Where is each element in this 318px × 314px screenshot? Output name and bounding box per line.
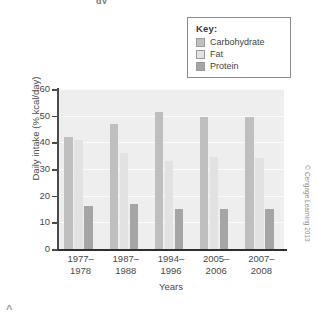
y-tick-mark: [52, 142, 58, 144]
legend-swatch-icon: [196, 62, 205, 71]
bar-protein: [265, 209, 274, 249]
y-tick-mark: [52, 116, 58, 118]
y-tick-label-text: 0: [4, 243, 50, 254]
y-axis-title: Daily intake (% kcal/day): [30, 49, 41, 209]
bar-group: [200, 89, 229, 249]
legend: Key: CarbohydrateFatProtein: [187, 17, 291, 78]
legend-swatch-icon: [196, 38, 205, 47]
legend-item-protein: Protein: [196, 61, 284, 71]
bar-carbohydrate: [64, 137, 73, 249]
legend-title: Key:: [196, 23, 284, 34]
bar-fat: [120, 153, 129, 249]
y-tick-label-text: 40: [4, 136, 50, 147]
y-tick-label-text: 60: [4, 83, 50, 94]
y-tick-label-text: 50: [4, 110, 50, 121]
y-tick-label-text: 30: [4, 163, 50, 174]
legend-item-label: Fat: [210, 49, 223, 59]
x-axis-line: [57, 249, 287, 251]
y-tick-mark: [52, 249, 58, 251]
copyright-credit: © Cengage Learning 2013: [304, 154, 311, 254]
bar-fat: [165, 161, 174, 249]
legend-item-label: Protein: [210, 61, 239, 71]
bar-carbohydrate: [200, 117, 209, 249]
y-tick-mark: [52, 89, 58, 91]
bar-carbohydrate: [155, 112, 164, 249]
bar-fat: [255, 158, 264, 249]
bar-group: [155, 89, 184, 249]
legend-item-label: Carbohydrate: [210, 37, 265, 47]
x-tick-label-line: 2008: [234, 265, 288, 277]
page-marker-fragment-bottom: ^: [6, 303, 16, 313]
y-tick-label: 10: [0, 216, 50, 227]
legend-item-carbohydrate: Carbohydrate: [196, 37, 284, 47]
bar-protein: [84, 206, 93, 249]
bar-group: [64, 89, 93, 249]
y-tick-label-text: 20: [4, 190, 50, 201]
y-tick-label-text: 10: [4, 216, 50, 227]
y-tick-label: 30: [0, 163, 50, 174]
legend-entries: CarbohydrateFatProtein: [196, 37, 284, 71]
y-tick-label: 0: [0, 243, 50, 254]
bar-carbohydrate: [245, 117, 254, 249]
bar-protein: [130, 204, 139, 249]
y-tick-label: 50: [0, 110, 50, 121]
bar-protein: [220, 209, 229, 249]
bar-fat: [74, 140, 83, 249]
bar-group: [245, 89, 274, 249]
bar-fat: [210, 157, 219, 249]
y-tick-label: 40: [0, 136, 50, 147]
x-tick-label: 2007–2008: [234, 253, 288, 276]
y-tick-label: 20: [0, 190, 50, 201]
x-axis-title: Years: [58, 281, 284, 292]
legend-item-fat: Fat: [196, 49, 284, 59]
y-tick-mark: [52, 169, 58, 171]
legend-swatch-icon: [196, 50, 205, 59]
y-tick-label: 60: [0, 83, 50, 94]
y-tick-mark: [52, 196, 58, 198]
bar-group: [110, 89, 139, 249]
y-tick-mark: [52, 222, 58, 224]
x-tick-label-line: 2007–: [234, 253, 288, 265]
bar-protein: [175, 209, 184, 249]
bar-carbohydrate: [110, 124, 119, 249]
